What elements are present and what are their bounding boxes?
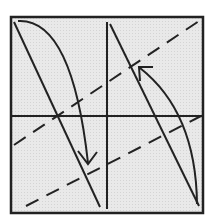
phase-plane-diagram <box>0 0 213 220</box>
